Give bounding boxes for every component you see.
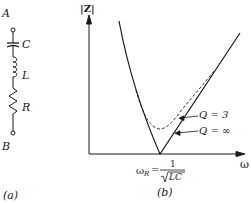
resonance-equals: = — [151, 165, 159, 175]
inductor-icon — [13, 57, 17, 77]
resistor-icon — [9, 88, 17, 114]
series-rlc-circuit — [7, 28, 19, 135]
arrow-q3-icon — [179, 116, 184, 121]
resistor-label: R — [22, 102, 30, 113]
terminal-b-label: B — [2, 141, 10, 152]
inductor-label: L — [22, 70, 29, 81]
caption-a: (a) — [3, 190, 18, 201]
terminal-a-icon — [11, 28, 15, 32]
qinf-label: Q = ∞ — [199, 126, 230, 136]
y-axis-label: |Z| — [80, 4, 95, 14]
resonance-subscript: R — [144, 171, 149, 178]
caption-b: (b) — [157, 187, 173, 198]
arrow-qinf-icon — [175, 131, 180, 136]
resonance-omega: ω — [136, 166, 144, 176]
x-axis-arrow-icon — [236, 152, 245, 157]
q3-label: Q = 3 — [199, 110, 228, 120]
terminal-b-icon — [11, 131, 15, 135]
diagram-canvas — [0, 0, 251, 203]
terminal-a-label: A — [2, 8, 10, 19]
capacitor-label: C — [22, 39, 30, 50]
y-axis-arrow-icon — [87, 15, 92, 24]
curve-q-3 — [136, 70, 215, 129]
x-axis-label: ω — [240, 159, 249, 170]
resonance-denominator: LC — [169, 173, 182, 182]
resonance-numerator: 1 — [170, 160, 176, 169]
